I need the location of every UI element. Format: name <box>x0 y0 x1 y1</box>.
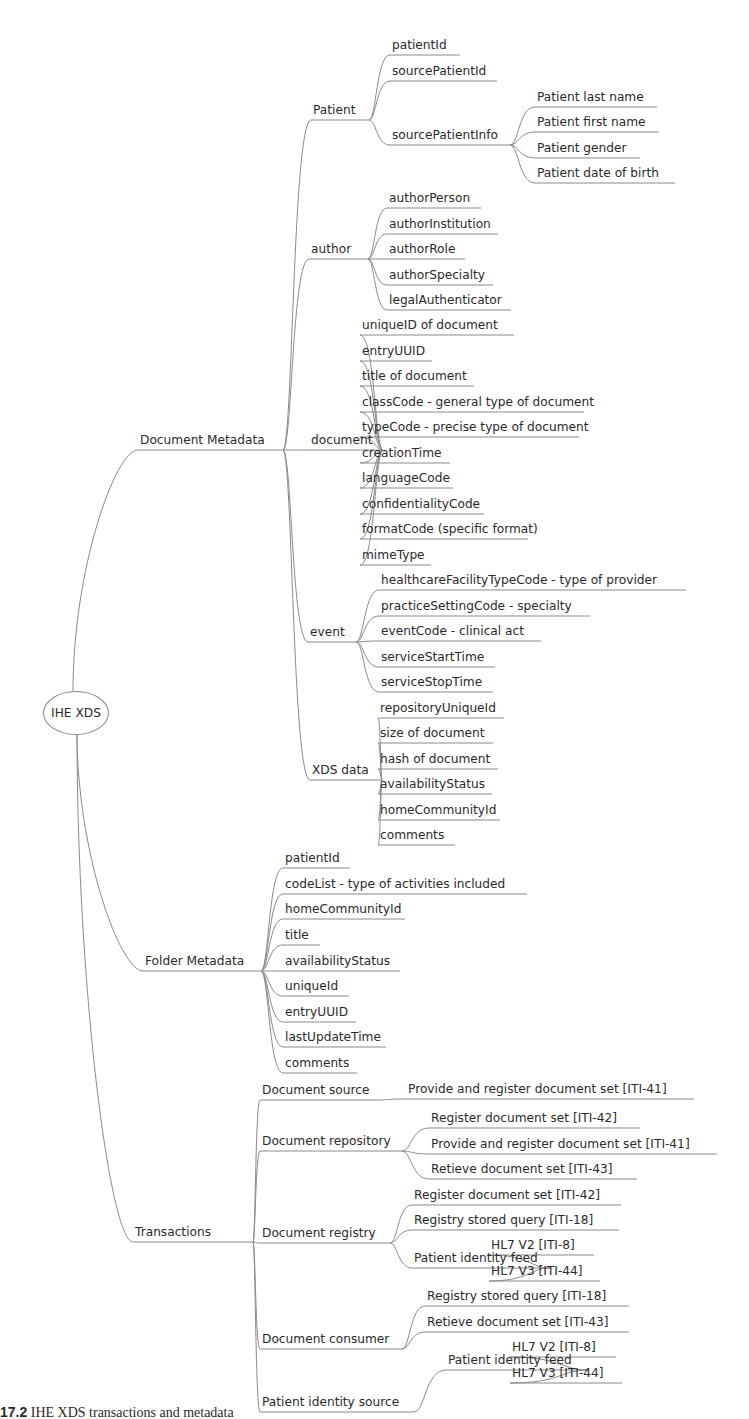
node-d1: uniqueID of document <box>362 318 498 332</box>
node-t3a: Register document set [ITI-42] <box>414 1188 600 1202</box>
node-t5a: Patient identity feed <box>448 1353 572 1367</box>
node-t3c2: HL7 V3 [ITI-44] <box>491 1264 583 1278</box>
node-t3: Document registry <box>262 1226 376 1240</box>
node-x2: size of document <box>380 726 485 740</box>
node-d9: formatCode (specific format) <box>362 522 538 536</box>
node-document: document <box>311 433 373 447</box>
node-x6: comments <box>380 828 444 842</box>
node-e1: healthcareFacilityTypeCode - type of pro… <box>381 573 657 587</box>
node-d8: confidentialityCode <box>362 497 480 511</box>
figure-caption-text: IHE XDS transactions and metadata <box>27 1405 233 1419</box>
node-d7: languageCode <box>362 471 450 485</box>
node-xds-data: XDS data <box>312 763 369 777</box>
node-d3: title of document <box>362 369 467 383</box>
node-a5: legalAuthenticator <box>389 293 502 307</box>
node-f7: entryUUID <box>285 1005 348 1019</box>
node-t2a: Register document set [ITI-42] <box>431 1111 617 1125</box>
node-t2b: Provide and register document set [ITI-4… <box>431 1137 690 1151</box>
root-node-ihe-xds: IHE XDS <box>43 691 109 735</box>
node-d10: mimeType <box>362 548 425 562</box>
node-f9: comments <box>285 1056 349 1070</box>
figure-caption: 17.2 IHE XDS transactions and metadata <box>0 1404 234 1419</box>
node-f3: homeCommunityId <box>285 902 401 916</box>
node-d5: typeCode - precise type of document <box>362 420 589 434</box>
node-p3a: Patient last name <box>537 90 644 104</box>
node-f5: availabilityStatus <box>285 954 390 968</box>
node-t5a2: HL7 V3 [ITI-44] <box>512 1366 604 1380</box>
node-p3: sourcePatientInfo <box>392 128 498 142</box>
node-t4b: Retieve document set [ITI-43] <box>427 1315 609 1329</box>
node-folder-metadata: Folder Metadata <box>145 954 244 968</box>
node-t3c1: HL7 V2 [ITI-8] <box>491 1238 575 1252</box>
node-d2: entryUUID <box>362 344 425 358</box>
node-f1: patientId <box>285 851 340 865</box>
node-t3c: Patient identity feed <box>414 1251 538 1265</box>
node-document-metadata: Document Metadata <box>140 433 265 447</box>
node-t3b: Registry stored query [ITI-18] <box>414 1213 593 1227</box>
node-e2: practiceSettingCode - specialty <box>381 599 572 613</box>
node-p3b: Patient first name <box>537 115 646 129</box>
node-x4: availabilityStatus <box>380 777 485 791</box>
root-node-label: IHE XDS <box>51 706 101 720</box>
node-a1: authorPerson <box>389 191 470 205</box>
node-x1: repositoryUniqueId <box>380 701 496 715</box>
figure-number: 17.2 <box>0 1404 27 1419</box>
node-x3: hash of document <box>380 752 490 766</box>
node-e5: serviceStopTime <box>381 675 482 689</box>
node-t5a1: HL7 V2 [ITI-8] <box>512 1340 596 1354</box>
node-f6: uniqueId <box>285 979 338 993</box>
node-author: author <box>311 242 351 256</box>
node-patient: Patient <box>313 103 355 117</box>
node-x5: homeCommunityId <box>380 803 496 817</box>
node-a4: authorSpecialty <box>389 268 485 282</box>
node-event: event <box>310 625 345 639</box>
node-t2: Document repository <box>262 1134 391 1148</box>
node-p1: patientId <box>392 38 447 52</box>
node-d4: classCode - general type of document <box>362 395 594 409</box>
node-t1a: Provide and register document set [ITI-4… <box>408 1082 667 1096</box>
connector-lines <box>0 0 749 1419</box>
node-a2: authorInstitution <box>389 217 491 231</box>
node-f4: title <box>285 928 309 942</box>
node-t5: Patient identity source <box>262 1395 399 1409</box>
node-p3d: Patient date of birth <box>537 166 659 180</box>
node-e4: serviceStartTime <box>381 650 484 664</box>
node-t1: Document source <box>262 1083 370 1097</box>
node-f2: codeList - type of activities included <box>285 877 505 891</box>
node-e3: eventCode - clinical act <box>381 624 524 638</box>
node-f8: lastUpdateTime <box>285 1030 381 1044</box>
node-transactions: Transactions <box>135 1225 211 1239</box>
node-d6: creationTime <box>362 446 442 460</box>
node-a3: authorRole <box>389 242 455 256</box>
node-t2c: Retieve document set [ITI-43] <box>431 1162 613 1176</box>
node-t4: Document consumer <box>262 1332 389 1346</box>
node-p2: sourcePatientId <box>392 64 486 78</box>
node-t4a: Registry stored query [ITI-18] <box>427 1289 606 1303</box>
node-p3c: Patient gender <box>537 141 627 155</box>
